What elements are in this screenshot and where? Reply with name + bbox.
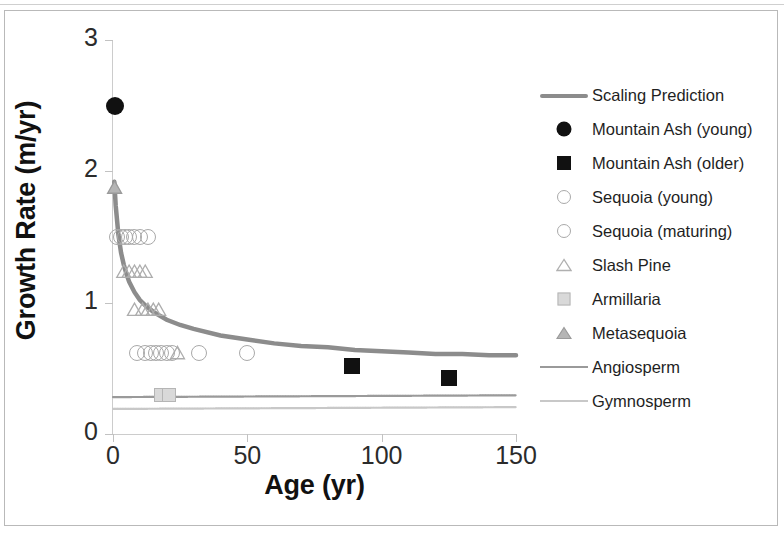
reference-line-gymnosperm	[113, 407, 516, 409]
legend-key-filled-square-icon	[536, 146, 592, 180]
legend-item[interactable]: Gymnosperm	[536, 384, 780, 418]
y-tick-mark	[105, 40, 113, 41]
legend-item-label: Armillaria	[592, 290, 661, 309]
legend-key-thick-line-icon	[536, 78, 592, 112]
legend-key-faint-line-icon	[536, 384, 592, 418]
data-point-sequoia-maturing	[239, 345, 255, 361]
series-line-scaling-prediction	[114, 182, 516, 355]
legend-key-shaded-square-icon	[536, 282, 592, 316]
y-tick-label: 1	[68, 286, 98, 315]
data-point-metasequoia	[108, 181, 122, 193]
y-tick-label: 3	[68, 23, 98, 52]
legend-item[interactable]: Armillaria	[536, 282, 780, 316]
legend-item[interactable]: Mountain Ash (older)	[536, 146, 780, 180]
legend-item-label: Sequoia (maturing)	[592, 222, 732, 241]
y-tick-mark	[105, 171, 113, 172]
legend-item[interactable]: Sequoia (maturing)	[536, 214, 780, 248]
y-tick-mark	[105, 434, 113, 435]
legend-key-thin-line-icon	[536, 350, 592, 384]
legend-item-label: Metasequoia	[592, 324, 686, 343]
legend-item[interactable]: Scaling Prediction	[536, 78, 780, 112]
y-axis-label: Growth Rate (m/yr)	[11, 21, 42, 421]
legend-item[interactable]: Slash Pine	[536, 248, 780, 282]
chart-figure: 0123 050100150 Growth Rate (m/yr) Age (y…	[0, 0, 784, 538]
data-point-sequoia-maturing	[164, 345, 180, 361]
chart-legend: Scaling PredictionMountain Ash (young)Mo…	[536, 78, 780, 418]
data-point-sequoia-maturing	[191, 345, 207, 361]
plot-area	[113, 40, 516, 434]
x-tick-label: 50	[212, 441, 282, 470]
legend-item[interactable]: Angiosperm	[536, 350, 780, 384]
legend-item[interactable]: Sequoia (young)	[536, 180, 780, 214]
legend-key-open-triangle-icon	[536, 248, 592, 282]
x-tick-label: 150	[481, 441, 551, 470]
legend-item-label: Gymnosperm	[592, 392, 691, 411]
legend-item-label: Sequoia (young)	[592, 188, 713, 207]
x-axis-line	[112, 434, 517, 435]
scan-edge-artifact	[0, 4, 784, 5]
legend-item-label: Angiosperm	[592, 358, 680, 377]
x-axis-label: Age (yr)	[113, 470, 516, 501]
legend-item[interactable]: Mountain Ash (young)	[536, 112, 780, 146]
legend-item[interactable]: Metasequoia	[536, 316, 780, 350]
x-tick-label: 0	[78, 441, 148, 470]
data-point-sequoia-young	[140, 229, 156, 245]
legend-item-label: Mountain Ash (older)	[592, 154, 744, 173]
legend-item-label: Mountain Ash (young)	[592, 120, 753, 139]
data-point-armillaria	[162, 388, 176, 402]
legend-key-filled-circle-icon	[536, 112, 592, 146]
data-point-mountain-ash-older	[344, 358, 360, 374]
legend-key-open-circle-icon	[536, 180, 592, 214]
legend-item-label: Scaling Prediction	[592, 86, 724, 105]
y-tick-label: 2	[68, 154, 98, 183]
legend-key-shaded-triangle-icon	[536, 316, 592, 350]
data-point-mountain-ash-young	[106, 97, 124, 115]
legend-item-label: Slash Pine	[592, 256, 671, 275]
data-point-mountain-ash-older	[441, 370, 457, 386]
x-tick-label: 100	[347, 441, 417, 470]
legend-key-open-circle-icon	[536, 214, 592, 248]
y-tick-mark	[105, 303, 113, 304]
